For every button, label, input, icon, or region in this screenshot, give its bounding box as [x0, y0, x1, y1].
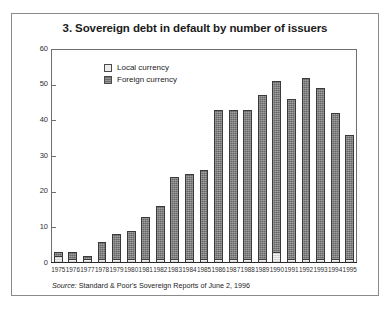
legend-item-label: Local currency [117, 63, 169, 72]
bar-segment-foreign-currency [302, 78, 311, 260]
y-axis-tick-label: 10 [24, 222, 48, 231]
x-axis-tick-label: 1985 [197, 266, 212, 273]
chart-title: 3. Sovereign debt in default by number o… [12, 22, 378, 34]
bar-stack [316, 88, 325, 263]
legend-item-label: Foreign currency [117, 75, 177, 84]
x-axis-tick-label: 1977 [80, 266, 95, 273]
legend: Local currencyForeign currency [104, 62, 177, 86]
x-axis-tick-label: 1976 [66, 266, 81, 273]
x-axis-tick-label: 1979 [109, 266, 124, 273]
bar-stack [185, 174, 194, 263]
bar-stack [141, 217, 150, 263]
x-axis-tick-label: 1992 [299, 266, 314, 273]
bars-group [51, 49, 357, 263]
x-axis-tick-label: 1989 [255, 266, 270, 273]
x-axis-tick-label: 1984 [182, 266, 197, 273]
bar-stack [112, 234, 121, 263]
bar-segment-foreign-currency [68, 252, 77, 259]
legend-item: Local currency [104, 62, 177, 73]
x-axis-tick-label: 1990 [270, 266, 285, 273]
bar-stack [331, 113, 340, 263]
bar-stack [229, 110, 238, 263]
bar-segment-foreign-currency [229, 110, 238, 260]
x-axis-tick-label: 1988 [240, 266, 255, 273]
x-axis-labels: 1975197619771978197919801981198219831984… [51, 266, 357, 278]
bar-stack [287, 99, 296, 263]
source-text: Standard & Poor's Sovereign Reports of J… [79, 281, 250, 290]
bar-segment-foreign-currency [185, 174, 194, 260]
bar-segment-foreign-currency [170, 177, 179, 259]
x-axis-tick-label: 1995 [342, 266, 357, 273]
y-axis-tick-label: 50 [24, 79, 48, 88]
bar-stack [243, 110, 252, 263]
y-axis-tick-label: 20 [24, 186, 48, 195]
y-axis-tick-label: 0 [24, 258, 48, 267]
bar-stack [258, 95, 267, 263]
x-axis-tick-label: 1978 [95, 266, 110, 273]
plot-area: 6050403020100 [51, 49, 357, 263]
legend-swatch-icon [104, 76, 112, 84]
bar-stack [272, 81, 281, 263]
bar-stack [345, 135, 354, 263]
x-axis-tick-label: 1980 [124, 266, 139, 273]
bar-stack [127, 231, 136, 263]
x-axis-tick-label: 1981 [138, 266, 153, 273]
bar-segment-foreign-currency [287, 99, 296, 260]
bar-segment-foreign-currency [98, 242, 107, 260]
bar-segment-foreign-currency [112, 234, 121, 259]
bar-segment-foreign-currency [258, 95, 267, 259]
x-axis-tick-label: 1987 [226, 266, 241, 273]
bar-stack [302, 78, 311, 263]
y-axis-tick-label: 40 [24, 115, 48, 124]
x-axis-tick-label: 1983 [168, 266, 183, 273]
legend-swatch-icon [104, 64, 112, 72]
bar-segment-foreign-currency [156, 206, 165, 260]
bar-stack [98, 242, 107, 263]
x-axis-tick-label: 1993 [313, 266, 328, 273]
bar-stack [156, 206, 165, 263]
legend-item: Foreign currency [104, 74, 177, 85]
bar-stack [200, 170, 209, 263]
bar-segment-foreign-currency [214, 110, 223, 260]
bar-segment-foreign-currency [345, 135, 354, 260]
bar-segment-foreign-currency [141, 217, 150, 260]
x-axis-tick-label: 1982 [153, 266, 168, 273]
bar-segment-foreign-currency [316, 88, 325, 259]
x-axis-tick-label: 1994 [328, 266, 343, 273]
x-axis-tick-label: 1991 [284, 266, 299, 273]
bar-segment-foreign-currency [272, 81, 281, 252]
bar-segment-foreign-currency [127, 231, 136, 260]
axis-baseline [51, 262, 357, 263]
y-axis-tick-label: 30 [24, 151, 48, 160]
bar-segment-foreign-currency [200, 170, 209, 259]
source-note: Source: Standard & Poor's Sovereign Repo… [52, 281, 250, 290]
source-label: Source: [52, 281, 77, 290]
x-axis-tick-label: 1986 [211, 266, 226, 273]
bar-segment-foreign-currency [331, 113, 340, 259]
bar-stack [170, 177, 179, 263]
bar-stack [214, 110, 223, 263]
figure-panel: 3. Sovereign debt in default by number o… [11, 13, 379, 296]
y-axis-tick-label: 60 [24, 44, 48, 53]
bar-segment-foreign-currency [243, 110, 252, 260]
x-axis-tick-label: 1975 [51, 266, 66, 273]
